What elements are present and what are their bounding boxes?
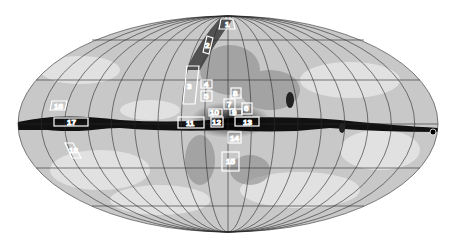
svg-text:1: 1	[225, 20, 230, 29]
svg-text:15: 15	[226, 157, 235, 166]
svg-text:17: 17	[67, 118, 76, 127]
all-sky-map: 1 2 3 4 5 6 7 8 9 10 11 12 13 14 15 16 1…	[0, 0, 456, 241]
svg-text:9: 9	[232, 108, 237, 117]
svg-text:11: 11	[186, 119, 195, 128]
svg-text:6: 6	[244, 104, 249, 113]
sky-map-canvas: 1 2 3 4 5 6 7 8 9 10 11 12 13 14 15 16 1…	[0, 0, 456, 241]
svg-text:14: 14	[230, 134, 239, 143]
svg-text:5: 5	[204, 92, 209, 101]
svg-text:10: 10	[210, 108, 219, 117]
svg-text:18: 18	[69, 146, 78, 155]
svg-text:16: 16	[54, 102, 63, 111]
svg-text:4: 4	[204, 80, 209, 89]
svg-text:13: 13	[243, 118, 252, 127]
svg-text:8: 8	[233, 89, 238, 98]
svg-text:12: 12	[212, 118, 221, 127]
svg-text:2: 2	[205, 41, 210, 50]
svg-text:3: 3	[187, 82, 192, 91]
